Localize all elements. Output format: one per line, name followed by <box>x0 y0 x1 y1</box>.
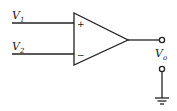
vo-label: Vo <box>155 47 167 62</box>
plus-sign: + <box>77 19 85 29</box>
output-terminal <box>159 37 164 42</box>
op-amp-diagram: V1 V2 + − Vo <box>0 0 177 111</box>
minus-sign: − <box>77 50 85 60</box>
ground-terminal <box>159 66 164 71</box>
ground-icon <box>155 98 169 104</box>
v2-label: V2 <box>12 40 25 55</box>
v1-label: V1 <box>12 9 24 24</box>
